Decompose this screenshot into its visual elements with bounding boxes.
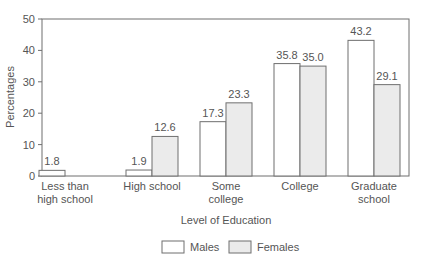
category-label: College — [281, 180, 318, 192]
bar-group: 1.8 — [39, 155, 65, 176]
category-label: Less than — [41, 180, 89, 192]
y-tick-label: 50 — [23, 13, 35, 25]
legend-label-females: Females — [257, 241, 300, 253]
bar-chart: 01020304050 Percentages 1.81.912.617.323… — [0, 0, 421, 261]
value-label: 35.0 — [302, 51, 323, 63]
category-labels: Less thanhigh schoolHigh schoolSomecolle… — [37, 180, 397, 205]
bar-males — [39, 170, 65, 176]
y-tick-label: 30 — [23, 76, 35, 88]
legend-swatch-males — [162, 241, 184, 253]
legend-label-males: Males — [190, 241, 220, 253]
value-label: 35.8 — [276, 49, 297, 61]
bar-males — [126, 170, 152, 176]
value-label: 23.3 — [228, 88, 249, 100]
bar-group: 17.323.3 — [200, 88, 252, 176]
category-label: college — [209, 193, 244, 205]
x-axis-title: Level of Education — [181, 214, 272, 226]
value-label: 12.6 — [154, 121, 175, 133]
y-axis-title: Percentages — [4, 66, 16, 128]
value-label: 1.9 — [131, 155, 146, 167]
y-tick-label: 20 — [23, 107, 35, 119]
y-axis: 01020304050 — [23, 13, 42, 182]
category-label: high school — [37, 193, 93, 205]
bar-group: 1.912.6 — [126, 121, 178, 176]
legend: Males Females — [162, 241, 300, 253]
bar-females — [300, 66, 326, 176]
category-label: Graduate — [351, 180, 397, 192]
value-label: 29.1 — [376, 70, 397, 82]
value-label: 1.8 — [44, 155, 59, 167]
bar-group: 43.229.1 — [348, 25, 400, 176]
bar-females — [374, 85, 400, 176]
legend-swatch-females — [229, 241, 251, 253]
bar-group: 35.835.0 — [274, 49, 326, 176]
y-tick-label: 0 — [29, 170, 35, 182]
bar-males — [348, 40, 374, 176]
bar-groups: 1.81.912.617.323.335.835.043.229.1 — [39, 25, 400, 176]
bar-males — [274, 64, 300, 176]
bar-males — [200, 122, 226, 176]
y-tick-label: 10 — [23, 139, 35, 151]
bar-females — [152, 136, 178, 176]
category-label: Some — [212, 180, 241, 192]
category-label: High school — [123, 180, 180, 192]
value-label: 43.2 — [350, 25, 371, 37]
y-tick-label: 40 — [23, 44, 35, 56]
value-label: 17.3 — [202, 107, 223, 119]
category-label: school — [358, 193, 390, 205]
bar-females — [226, 103, 252, 176]
